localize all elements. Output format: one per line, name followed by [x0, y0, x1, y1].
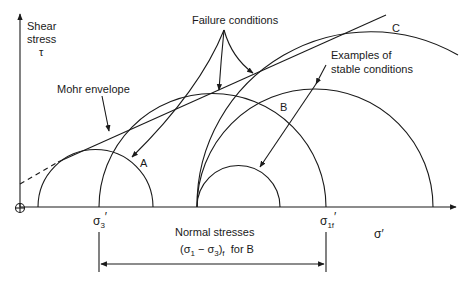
- dimension-label-line2: (σ1 − σ3)f for B: [180, 243, 254, 258]
- svg-text:σ1f′: σ1f′: [320, 210, 337, 230]
- circle-a: [38, 150, 153, 207]
- mohr-envelope-label: Mohr envelope: [57, 83, 130, 95]
- dimension-label-line1: Normal stresses: [175, 226, 255, 238]
- circle-b-label: B: [280, 101, 287, 113]
- failure-arrow-c: [224, 30, 253, 73]
- sigma3-tick-label: σ3′: [93, 210, 108, 230]
- circle-a-label: A: [140, 157, 148, 169]
- circle-b: [197, 89, 433, 207]
- mohr-envelope-dashed: [20, 162, 58, 184]
- y-axis-label-line2: stress: [27, 33, 57, 45]
- failure-conditions-label: Failure conditions: [192, 14, 279, 26]
- x-axis-label: σ′: [374, 227, 384, 241]
- circle-failure-large: [99, 94, 326, 207]
- mohr-envelope-pointer: [102, 96, 109, 131]
- mohr-circle-diagram: Shear stress τ Failure conditions Mohr e…: [0, 0, 466, 284]
- stable-arrow-small: [260, 84, 316, 167]
- origin-icon: [16, 204, 25, 213]
- y-axis-label-line1: Shear: [27, 20, 57, 32]
- svg-text:σ3′: σ3′: [93, 210, 108, 230]
- sigma1f-tick-label: σ1f′: [320, 210, 337, 230]
- circle-stable-small: [197, 166, 280, 208]
- circle-c-label: C: [392, 22, 400, 34]
- stable-conditions-label-line2: stable conditions: [331, 63, 413, 75]
- y-axis-symbol: τ: [39, 46, 44, 58]
- stable-conditions-label-line1: Examples of: [331, 49, 392, 61]
- stable-arrow-b: [316, 65, 326, 84]
